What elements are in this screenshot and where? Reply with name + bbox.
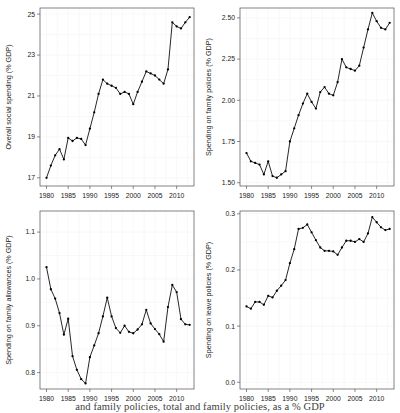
- x-tick-label: 1980: [239, 192, 254, 199]
- x-axis: 1980198519901995200020052010: [39, 186, 184, 199]
- x-tick-label: 1980: [39, 395, 54, 402]
- data-point: [89, 128, 91, 130]
- series-points: [245, 12, 390, 179]
- plot-frame: [240, 211, 394, 389]
- data-point: [354, 241, 356, 243]
- data-point: [336, 81, 338, 83]
- chart-svg-spending-family-allowances: 0.80.91.01.11980198519901995200020052010…: [0, 203, 200, 408]
- x-tick-label: 2010: [169, 192, 184, 199]
- data-point: [332, 94, 334, 96]
- figure-panel-grid: 17192123251980198519901995200020052010Ov…: [0, 0, 400, 413]
- data-point: [271, 296, 273, 298]
- data-point: [106, 297, 108, 299]
- data-point: [93, 111, 95, 113]
- y-tick-label: 2.25: [222, 55, 235, 62]
- x-tick-label: 1980: [239, 395, 254, 402]
- y-tick-label: 23: [27, 51, 35, 58]
- y-tick-label: 0.3: [226, 210, 236, 217]
- x-tick-label: 1995: [104, 192, 119, 199]
- x-tick-label: 1990: [282, 395, 297, 402]
- data-point: [71, 140, 73, 142]
- chart-panel-spending-family-policies: 1.501.752.002.252.5019801985199019952000…: [200, 0, 400, 205]
- data-point: [367, 232, 369, 234]
- data-point: [71, 355, 73, 357]
- data-point: [250, 160, 252, 162]
- x-tick-label: 2000: [126, 395, 141, 402]
- gridlines: [240, 211, 394, 389]
- data-point: [328, 250, 330, 252]
- x-tick-label: 1985: [261, 192, 276, 199]
- data-point: [336, 254, 338, 256]
- data-point: [154, 74, 156, 76]
- chart-panel-spending-leave-policies: 0.00.10.20.31980198519901995200020052010…: [200, 203, 400, 408]
- data-point: [280, 285, 282, 287]
- data-point: [297, 228, 299, 230]
- data-point: [263, 173, 265, 175]
- x-tick-label: 2010: [169, 395, 184, 402]
- data-point: [162, 83, 164, 85]
- y-tick-label: 0.9: [26, 322, 36, 329]
- y-axis: 0.80.91.01.1: [26, 228, 40, 376]
- x-axis: 1980198519901995200020052010: [239, 389, 384, 402]
- data-point: [154, 328, 156, 330]
- data-point: [389, 22, 391, 24]
- data-point: [115, 87, 117, 89]
- x-tick-label: 2005: [347, 395, 362, 402]
- x-tick-label: 1985: [61, 192, 76, 199]
- y-tick-label: 1.75: [222, 138, 235, 145]
- chart-panel-overall-social-spending: 17192123251980198519901995200020052010Ov…: [0, 0, 200, 205]
- data-point: [384, 229, 386, 231]
- data-point: [102, 315, 104, 317]
- data-point: [323, 250, 325, 252]
- data-point: [128, 93, 130, 95]
- data-point: [119, 332, 121, 334]
- x-tick-label: 2005: [147, 395, 162, 402]
- data-point: [389, 228, 391, 230]
- y-tick-label: 0.1: [226, 323, 236, 330]
- data-point: [136, 328, 138, 330]
- figure-caption: and family policies, total and family po…: [0, 402, 400, 413]
- data-point: [293, 248, 295, 250]
- data-point: [250, 308, 252, 310]
- gridlines: [40, 211, 194, 389]
- data-point: [106, 83, 108, 85]
- x-tick-label: 2000: [326, 395, 341, 402]
- data-point: [376, 221, 378, 223]
- data-point: [141, 81, 143, 83]
- y-tick-label: 21: [27, 92, 35, 99]
- figure-caption-text: and family policies, total and family po…: [0, 402, 400, 412]
- data-point: [58, 312, 60, 314]
- data-point: [50, 288, 52, 290]
- data-point: [293, 127, 295, 129]
- x-tick-label: 2010: [369, 395, 384, 402]
- data-point: [341, 246, 343, 248]
- data-point: [280, 173, 282, 175]
- y-tick-label: 0.8: [26, 369, 36, 376]
- data-point: [45, 266, 47, 268]
- y-tick-label: 0.2: [226, 266, 236, 273]
- data-point: [176, 291, 178, 293]
- data-point: [323, 86, 325, 88]
- data-point: [258, 163, 260, 165]
- data-point: [132, 332, 134, 334]
- y-tick-label: 2.50: [222, 14, 235, 21]
- x-tick-label: 1980: [39, 192, 54, 199]
- data-point: [63, 158, 65, 160]
- data-point: [97, 332, 99, 334]
- data-point: [180, 27, 182, 29]
- data-point: [167, 68, 169, 70]
- data-point: [245, 305, 247, 307]
- data-point: [80, 138, 82, 140]
- data-point: [189, 324, 191, 326]
- data-point: [376, 20, 378, 22]
- y-tick-label: 25: [27, 11, 35, 18]
- plot-frame: [40, 211, 194, 389]
- data-point: [158, 333, 160, 335]
- data-point: [149, 322, 151, 324]
- data-point: [115, 327, 117, 329]
- y-axis: 1719212325: [27, 11, 40, 182]
- data-point: [45, 177, 47, 179]
- y-tick-label: 17: [27, 174, 35, 181]
- data-point: [171, 284, 173, 286]
- plot-frame: [240, 8, 394, 186]
